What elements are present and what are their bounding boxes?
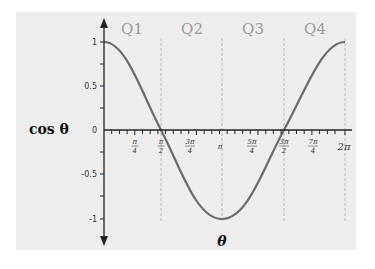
x-tick-5pi-4-num: 5π xyxy=(247,138,256,146)
x-tick-7pi-4-num: 7π xyxy=(308,138,317,146)
x-tick-labels: π 4 π 2 3π 4 π 5π 4 3π 2 7π 4 2π xyxy=(131,138,350,155)
y-axis-title: cos θ xyxy=(29,121,69,137)
x-tick-3pi-2-den: 2 xyxy=(281,147,287,155)
x-tick-3pi-4-den: 4 xyxy=(187,147,192,155)
x-axis-title: θ xyxy=(217,233,227,249)
x-tick-pi-4-den: 4 xyxy=(132,147,137,155)
x-axis xyxy=(104,130,352,135)
y-tick-1: 1 xyxy=(92,38,97,47)
y-tick-neg-1: -1 xyxy=(89,215,97,224)
y-axis-down-arrow-icon xyxy=(100,236,108,246)
x-tick-5pi-4-den: 4 xyxy=(249,147,254,155)
x-tick-3pi-4-num: 3π xyxy=(185,138,194,146)
x-tick-2pi: 2π xyxy=(337,141,351,152)
x-tick-pi-4-num: π xyxy=(131,138,137,146)
quadrant-label-q4: Q4 xyxy=(304,20,326,38)
y-axis xyxy=(100,18,108,246)
x-tick-3pi-2-num: 3π xyxy=(279,138,288,146)
x-tick-pi-2-num: π xyxy=(158,138,164,146)
x-tick-pi-2-den: 2 xyxy=(158,147,164,155)
quadrant-label-q3: Q3 xyxy=(242,20,264,38)
x-tick-7pi-4-den: 4 xyxy=(310,147,315,155)
y-tick-neg-0-5: -0.5 xyxy=(81,170,97,179)
y-tick-0: 0 xyxy=(92,126,97,135)
y-tick-0-5: 0.5 xyxy=(84,82,97,91)
y-axis-up-arrow-icon xyxy=(100,18,108,28)
x-tick-pi: π xyxy=(217,143,223,151)
cosine-chart: Q1 Q2 Q3 Q4 xyxy=(0,0,375,269)
quadrant-label-q1: Q1 xyxy=(121,20,143,38)
quadrant-label-q2: Q2 xyxy=(181,20,203,38)
y-tick-labels: 1 0.5 0 -0.5 -1 xyxy=(81,38,97,224)
